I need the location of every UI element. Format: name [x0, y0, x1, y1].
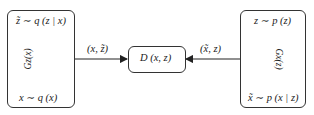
generator-bottom-label: x̃ ∼ p (x | z) [248, 91, 298, 103]
edge-right-label: (x̃, z) [200, 43, 221, 54]
encoder-top-label: z̃ ∼ q (z | x) [16, 14, 66, 26]
edge-left-label: (x, z̃) [87, 43, 108, 54]
generator-top-label: z ∼ p (z) [254, 14, 291, 26]
encoder-bottom-label: x ∼ q (x) [19, 91, 57, 103]
discriminator-label: D (x, z) [140, 52, 171, 63]
encoder-arrow-label: Gz(x) [23, 48, 33, 69]
generator-arrow-label: Gx(z) [274, 48, 284, 69]
